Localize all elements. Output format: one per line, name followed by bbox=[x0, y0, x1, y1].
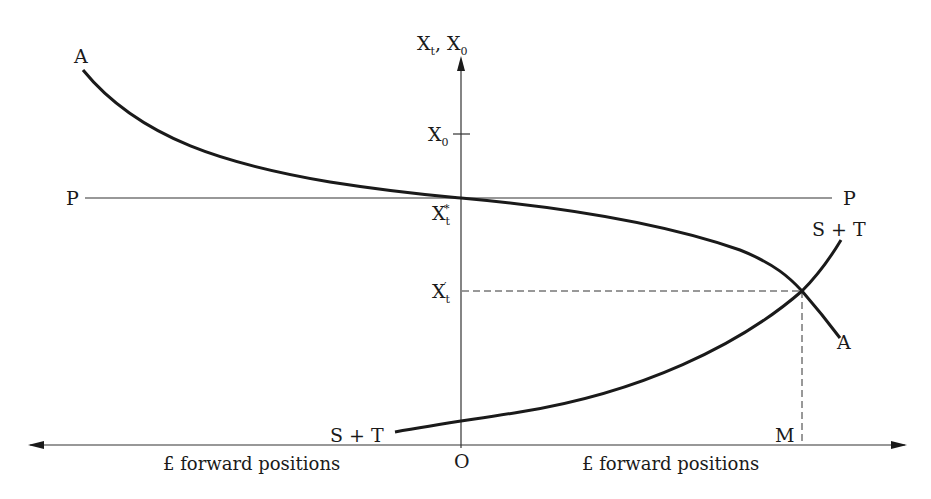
y-axis-label: Xt, X0 bbox=[417, 32, 468, 58]
a-curve-right-label: A bbox=[836, 331, 851, 353]
x0-label: X0 bbox=[428, 123, 449, 149]
x-axis-right-label: £ forward positions bbox=[582, 453, 759, 474]
p-line-right-label: P bbox=[843, 187, 856, 209]
up-arrow-icon bbox=[457, 56, 465, 71]
st-curve-left-label: S + T bbox=[330, 424, 384, 446]
vertical-axis bbox=[453, 56, 470, 448]
st-curve-right-label: S + T bbox=[812, 218, 866, 240]
a-curve-left-label: A bbox=[73, 45, 88, 67]
m-label: M bbox=[775, 424, 794, 446]
left-arrow-icon bbox=[28, 441, 44, 449]
origin-label: O bbox=[454, 450, 470, 472]
xt-prime-label: Xt′ bbox=[432, 280, 451, 306]
diagram-canvas: Xt, X0 X0 Xt* Xt′ A A P P S + T S + T M … bbox=[0, 0, 931, 499]
p-line-left-label: P bbox=[66, 187, 79, 209]
x-axis-left-label: £ forward positions bbox=[163, 453, 340, 474]
right-arrow-icon bbox=[891, 441, 907, 449]
xt-star-label: Xt* bbox=[432, 202, 451, 228]
